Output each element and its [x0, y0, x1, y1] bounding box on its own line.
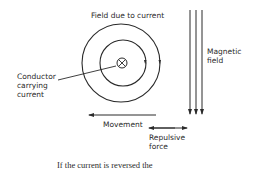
magnetic-field-label-line1: Magnetic [207, 47, 241, 56]
magnetic-field-lines [190, 10, 202, 114]
diagram: Field due to current Magnetic field Cond… [0, 0, 254, 171]
conductor-cross-icon [117, 58, 127, 68]
field-due-to-current-label: Field due to current [91, 11, 164, 20]
conductor-label-line1: Conductor [17, 72, 56, 81]
caption-text: If the current is reversed the [57, 160, 153, 170]
conductor-label-line2: carrying [17, 81, 48, 90]
repulsive-force-label-line2: force [149, 142, 168, 151]
repulsive-force-label-line1: Repulsive [149, 133, 185, 142]
magnetic-field-label-line2: field [207, 56, 223, 65]
conductor-leader-line [58, 66, 116, 80]
conductor-label-line3: current [17, 90, 44, 99]
outer-circle-arrow-icon [159, 60, 162, 65]
movement-label: Movement [103, 120, 143, 129]
